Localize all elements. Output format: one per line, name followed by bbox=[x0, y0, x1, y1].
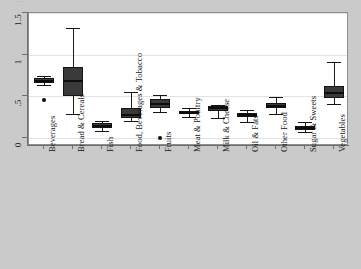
whisker-lower bbox=[334, 98, 335, 105]
x-axis-tick bbox=[43, 145, 44, 149]
x-axis-category-label: Beverages bbox=[47, 116, 57, 152]
x-axis-tick bbox=[275, 145, 276, 149]
median-line bbox=[324, 92, 344, 94]
x-axis-tick bbox=[159, 145, 160, 149]
x-axis-tick bbox=[188, 145, 189, 149]
y-axis-label: 1.5 bbox=[13, 12, 23, 28]
x-axis-category-label: Food, Beverages & Tobacco bbox=[134, 53, 144, 152]
x-axis-tick bbox=[217, 145, 218, 149]
x-axis-tick bbox=[72, 145, 73, 149]
x-axis-tick bbox=[246, 145, 247, 149]
x-axis-tick bbox=[304, 145, 305, 149]
x-axis-category-label: Fruits bbox=[163, 132, 173, 152]
x-axis-category-label: Meat & Poultry bbox=[192, 97, 202, 152]
y-axis-label: .5 bbox=[13, 95, 23, 111]
y-axis-label: 0 bbox=[13, 137, 23, 153]
x-axis-category-label: Other Food bbox=[279, 112, 289, 152]
x-axis-tick bbox=[130, 145, 131, 149]
x-axis-category-label: Fish bbox=[105, 137, 115, 152]
x-axis-category-label: Sugar & Sweets bbox=[308, 96, 318, 152]
x-axis-category-label: Bread & Cereals bbox=[76, 94, 86, 152]
top-cropped-text: ...... bbox=[14, 0, 74, 3]
y-axis-label: 1 bbox=[13, 54, 23, 70]
x-axis-category-label: Milk & Cheese bbox=[221, 99, 231, 152]
chart-figure: ...... 0.511.5 BeveragesBread & CerealsF… bbox=[0, 0, 361, 269]
whisker-upper bbox=[334, 62, 335, 86]
x-axis-tick bbox=[333, 145, 334, 149]
x-axis-tick bbox=[101, 145, 102, 149]
x-axis-category-label: Oil & Fats bbox=[250, 115, 260, 152]
x-axis-category-label: Vegetables bbox=[337, 114, 347, 152]
whisker-cap-lower bbox=[327, 104, 341, 105]
y-axis-line bbox=[27, 12, 28, 146]
whisker-cap-upper bbox=[327, 62, 341, 63]
